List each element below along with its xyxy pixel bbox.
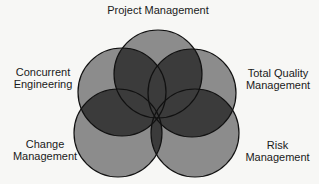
label-change-management: Change Management [10,138,80,162]
label-concurrent-engineering: Concurrent Engineering [8,66,78,90]
label-total-quality-management: Total Quality Management [238,67,318,91]
label-risk-management: Risk Management [240,139,315,163]
label-project-management: Project Management [103,4,213,16]
